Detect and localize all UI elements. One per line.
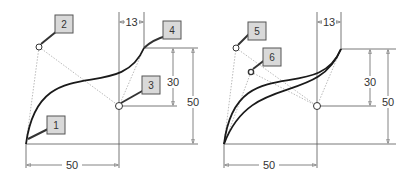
left-construction-lines bbox=[26, 47, 144, 144]
dim-label: 30 bbox=[364, 76, 376, 88]
control-point-6[interactable] bbox=[248, 69, 253, 74]
callout-4: 4 bbox=[144, 21, 181, 48]
callout-2: 2 bbox=[41, 15, 73, 44]
callout-label: 3 bbox=[148, 80, 154, 91]
callout-6: 6 bbox=[253, 48, 281, 69]
callout-1: 1 bbox=[28, 116, 65, 139]
left-dim-top-13: 13 bbox=[120, 16, 143, 28]
control-point-5[interactable] bbox=[233, 45, 239, 51]
right-construction-lines bbox=[224, 48, 341, 144]
right-dim-bottom-50: 50 bbox=[225, 159, 316, 171]
callout-label: 5 bbox=[254, 26, 260, 37]
dim-label: 50 bbox=[66, 159, 78, 171]
callout-label: 2 bbox=[61, 19, 67, 30]
right-dim-vertical-50: 50 bbox=[380, 50, 396, 143]
callout-5: 5 bbox=[238, 22, 266, 45]
dim-label: 13 bbox=[125, 16, 137, 28]
diagram-stage: 50 13 30 50 1 2 bbox=[0, 0, 415, 182]
dim-label: 50 bbox=[382, 96, 394, 108]
left-diagram: 50 13 30 50 1 2 bbox=[26, 12, 201, 171]
right-dim-vertical-30: 30 bbox=[362, 50, 378, 105]
dim-label: 50 bbox=[187, 96, 199, 108]
callout-label: 4 bbox=[169, 25, 175, 36]
callout-3: 3 bbox=[121, 76, 160, 103]
dim-label: 13 bbox=[323, 16, 335, 28]
right-spline-curve-a bbox=[224, 49, 341, 144]
right-diagram: 50 13 30 50 5 6 bbox=[224, 12, 396, 171]
left-dim-bottom-50: 50 bbox=[27, 159, 118, 171]
callout-label: 1 bbox=[53, 120, 59, 131]
dim-label: 50 bbox=[263, 159, 275, 171]
right-dim-top-13: 13 bbox=[318, 16, 340, 28]
left-dim-vertical-50: 50 bbox=[185, 49, 201, 143]
right-spline-curve-b bbox=[224, 49, 341, 144]
control-point-shared[interactable] bbox=[314, 103, 321, 110]
control-point-2[interactable] bbox=[36, 44, 42, 50]
left-spline-curve bbox=[26, 48, 144, 144]
callout-label: 6 bbox=[269, 52, 275, 63]
left-dim-vertical-30: 30 bbox=[165, 49, 181, 105]
dim-label: 30 bbox=[167, 76, 179, 88]
